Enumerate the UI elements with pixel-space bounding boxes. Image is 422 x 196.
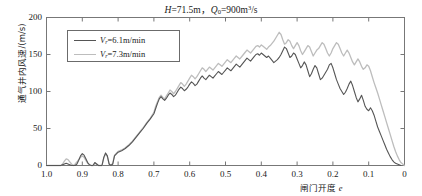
y-tick-label: 100 (8, 87, 42, 96)
x-tick-label: 1.0 (32, 170, 62, 179)
y-tick-label: 0 (8, 161, 42, 170)
legend-swatch-series-0 (74, 40, 96, 41)
legend-item-1: Vr=7.3m/min (68, 47, 179, 61)
legend-1-value: =7.3m/min (108, 49, 146, 59)
y-tick-label: 50 (8, 124, 42, 133)
chart-canvas (0, 0, 422, 196)
x-tick-label: 0.2 (318, 170, 348, 179)
legend-item-0: Vr=6.1m/min (68, 33, 179, 47)
x-axis-label-symbol: e (339, 183, 343, 193)
x-tick-label: 0.7 (139, 170, 169, 179)
x-tick-label: 0.8 (103, 170, 133, 179)
x-tick-label: 0.3 (282, 170, 312, 179)
x-axis-label: 闸门开度 e (300, 181, 342, 193)
x-tick-label: 0.5 (211, 170, 241, 179)
x-tick-label: 0.4 (246, 170, 276, 179)
legend-label-series-0: Vr=6.1m/min (100, 35, 145, 45)
x-tick-label: 0.1 (354, 170, 384, 179)
x-tick-label: 0.9 (67, 170, 97, 179)
chart-figure: H=71.5m，Q0=900m3/s 通气井内风速/(m/s) 05010015… (0, 0, 422, 196)
x-tick-label: 0.6 (175, 170, 205, 179)
x-axis-label-text: 闸门开度 (300, 183, 336, 193)
x-tick-label: 0 (390, 170, 420, 179)
y-tick-label: 200 (8, 13, 42, 22)
legend-label-series-1: Vr=7.3m/min (100, 49, 145, 59)
legend-0-value: =6.1m/min (108, 35, 146, 45)
y-tick-label: 150 (8, 50, 42, 59)
chart-legend: Vr=6.1m/min Vr=7.3m/min (67, 30, 180, 62)
y-axis-tick-labels: 050100150200 (0, 0, 42, 196)
legend-swatch-series-1 (74, 54, 96, 55)
